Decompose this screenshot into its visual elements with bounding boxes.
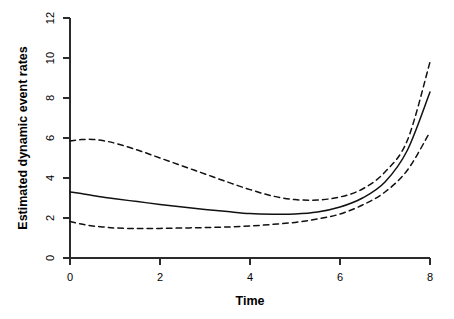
estimated-rate-curve [70,92,430,214]
x-axis-tick-labels: 0 2 4 6 8 [67,271,433,283]
y-tick-label-0: 0 [44,255,56,261]
y-tick-label-12: 12 [44,12,56,24]
y-tick-label-4: 4 [44,175,56,181]
chart-canvas: 0 2 4 6 8 10 12 0 2 4 6 8 Time Estimated… [0,0,454,319]
x-tick-label-8: 8 [427,271,433,283]
x-tick-label-2: 2 [157,271,163,283]
chart-figure: 0 2 4 6 8 10 12 0 2 4 6 8 Time Estimated… [0,0,454,319]
x-tick-label-4: 4 [247,271,253,283]
y-axis-ticks [63,18,70,258]
y-axis-tick-labels: 0 2 4 6 8 10 12 [44,12,56,261]
upper-confidence-band [70,62,430,200]
y-tick-label-10: 10 [44,52,56,64]
y-tick-label-2: 2 [44,215,56,221]
x-tick-label-0: 0 [67,271,73,283]
x-tick-label-6: 6 [337,271,343,283]
x-axis-title: Time [236,294,265,308]
y-tick-label-6: 6 [44,135,56,141]
x-axis-ticks [70,258,430,265]
y-tick-label-8: 8 [44,95,56,101]
y-axis-title: Estimated dynamic event rates [16,46,30,229]
